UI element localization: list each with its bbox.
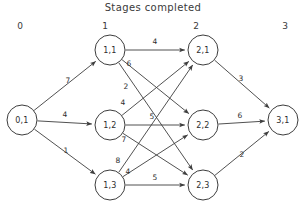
node-label: 0,1 [15, 116, 28, 125]
edge-weight-label: 4 [153, 37, 158, 46]
node-label: 1,2 [103, 121, 116, 130]
edge-weight-label: 6 [238, 111, 243, 120]
edge-weight-label: 1 [64, 146, 69, 155]
stage-number-1: 1 [102, 21, 108, 31]
edge-weight-label: 6 [127, 59, 132, 68]
edge-13-to-21 [119, 65, 193, 172]
node-2-3[interactable]: 2,3 [188, 170, 218, 200]
edge-weight-label: 7 [66, 76, 71, 85]
node-label: 2,3 [196, 181, 209, 190]
edge-11-to-22 [122, 60, 189, 114]
node-0-1[interactable]: 0,1 [7, 105, 37, 135]
stage-axis: 0123 [17, 21, 288, 31]
edge-weight-label: 5 [153, 173, 158, 182]
network-diagram: Stages completed 0123 741462457845362 0,… [0, 0, 306, 211]
edge-weight-label: 4 [121, 98, 126, 107]
stage-number-2: 2 [193, 21, 199, 31]
edge-01-to-11 [34, 61, 96, 110]
node-1-1[interactable]: 1,1 [95, 35, 125, 65]
node-label: 2,2 [196, 121, 209, 130]
node-1-3[interactable]: 1,3 [95, 170, 125, 200]
node-label: 1,3 [103, 181, 116, 190]
edge-weight-label: 4 [63, 110, 68, 119]
node-1-2[interactable]: 1,2 [95, 110, 125, 140]
edge-12-to-23 [123, 133, 188, 175]
stage-number-0: 0 [17, 21, 23, 31]
edge-weight-label: 7 [122, 135, 127, 144]
edge-weight-layer: 741462457845362 [63, 37, 245, 182]
edge-weight-label: 5 [150, 112, 155, 121]
edge-weight-label: 2 [240, 150, 245, 159]
stage-number-3: 3 [282, 21, 288, 31]
edge-weight-label: 2 [124, 82, 129, 91]
edge-21-to-31 [215, 60, 270, 108]
node-2-1[interactable]: 2,1 [188, 35, 218, 65]
diagram-canvas: Stages completed 0123 741462457845362 0,… [0, 0, 306, 211]
node-2-2[interactable]: 2,2 [188, 110, 218, 140]
node-3-1[interactable]: 3,1 [268, 105, 298, 135]
node-label: 1,1 [103, 46, 116, 55]
edge-weight-label: 4 [126, 167, 131, 176]
node-label: 2,1 [196, 46, 209, 55]
edge-11-to-23 [119, 63, 193, 170]
edge-13-to-22 [123, 135, 188, 177]
edge-01-to-12 [37, 121, 91, 124]
edge-weight-label: 3 [239, 74, 244, 83]
edge-weight-label: 8 [116, 156, 121, 165]
edge-12-to-21 [122, 61, 189, 115]
diagram-title: Stages completed [105, 2, 202, 13]
edge-22-to-31 [218, 121, 264, 124]
node-label: 3,1 [276, 116, 289, 125]
